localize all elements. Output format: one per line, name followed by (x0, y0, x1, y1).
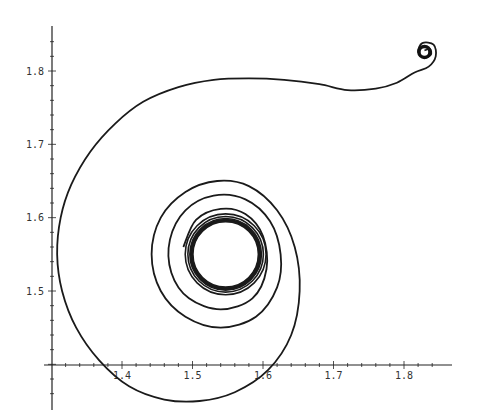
focus-point (419, 46, 430, 57)
limit-cycle-ring (188, 217, 264, 293)
x-tick-label: 1.7 (324, 370, 342, 381)
ticks (48, 42, 432, 394)
y-tick-label: 1.8 (26, 66, 44, 77)
limit-cycle-ring (185, 214, 266, 295)
x-tick-label: 1.8 (395, 370, 413, 381)
limit-cycle-ring (193, 221, 259, 287)
axes (44, 26, 452, 410)
y-tick-label: 1.7 (26, 139, 44, 150)
y-tick-label: 1.5 (26, 286, 44, 297)
x-tick-label: 1.5 (183, 370, 201, 381)
tick-labels: 1.41.51.61.71.81.51.61.71.8 (26, 66, 413, 382)
trajectory-curve (57, 42, 436, 401)
phase-plot: 1.41.51.61.71.81.51.61.71.8 (0, 0, 477, 418)
y-tick-label: 1.6 (26, 212, 44, 223)
